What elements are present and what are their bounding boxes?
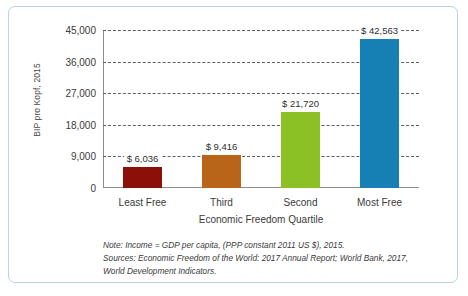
y-axis-title: BIP pro Kopf, 2015 bbox=[32, 25, 42, 175]
chart-area: BIP pro Kopf, 2015 09,00018,00027,00036,… bbox=[9, 7, 459, 217]
caption-note-line: Note: Income = GDP per capita, (PPP cons… bbox=[103, 239, 433, 252]
y-tick-label: 36,000 bbox=[65, 56, 96, 67]
x-tick-label: Second bbox=[284, 197, 318, 208]
y-tick-label: 0 bbox=[90, 183, 96, 194]
x-tick-label: Most Free bbox=[357, 197, 402, 208]
bar-value-label: $ 6,036 bbox=[124, 153, 162, 164]
bar: $ 42,563Most Free bbox=[360, 39, 399, 188]
y-axis-line bbox=[103, 30, 104, 188]
plot-area: 09,00018,00027,00036,00045,000$ 6,036Lea… bbox=[103, 30, 419, 188]
x-axis-title: Economic Freedom Quartile bbox=[103, 214, 419, 225]
caption-sources-continued: World Development Indicators. bbox=[103, 265, 433, 278]
bar: $ 9,416Third bbox=[202, 155, 241, 188]
caption-sources-line: Sources: Economic Freedom of the World: … bbox=[103, 252, 433, 265]
bar: $ 21,720Second bbox=[281, 112, 320, 188]
figure-caption: Note: Income = GDP per capita, (PPP cons… bbox=[103, 239, 433, 278]
y-tick-label: 45,000 bbox=[65, 25, 96, 36]
figure-frame: BIP pro Kopf, 2015 09,00018,00027,00036,… bbox=[8, 6, 458, 283]
bar-value-label: $ 9,416 bbox=[203, 141, 241, 152]
y-tick-label: 27,000 bbox=[65, 88, 96, 99]
y-tick-label: 9,000 bbox=[71, 151, 96, 162]
y-tick-label: 18,000 bbox=[65, 119, 96, 130]
bar: $ 6,036Least Free bbox=[123, 167, 162, 188]
x-tick-label: Third bbox=[210, 197, 233, 208]
bar-value-label: $ 21,720 bbox=[279, 98, 322, 109]
x-tick-label: Least Free bbox=[119, 197, 167, 208]
bar-value-label: $ 42,563 bbox=[358, 25, 401, 36]
